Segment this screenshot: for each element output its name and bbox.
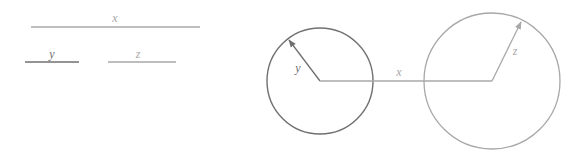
legend-y: y (25, 47, 79, 62)
diagram: x y z y x z (0, 0, 578, 152)
segment-x-label: x (395, 65, 402, 79)
radius-y-label: y (294, 61, 301, 75)
legend-x: x (31, 11, 200, 27)
radius-z-label: z (512, 44, 518, 58)
legend-y-label: y (48, 47, 55, 61)
legend-z: z (108, 47, 176, 62)
segment-x-group: x (320, 65, 492, 81)
legend-z-label: z (135, 47, 141, 61)
radius-y-arrow (289, 40, 320, 81)
diagram-canvas: x y z y x z (0, 0, 578, 152)
legend-x-label: x (111, 11, 118, 25)
